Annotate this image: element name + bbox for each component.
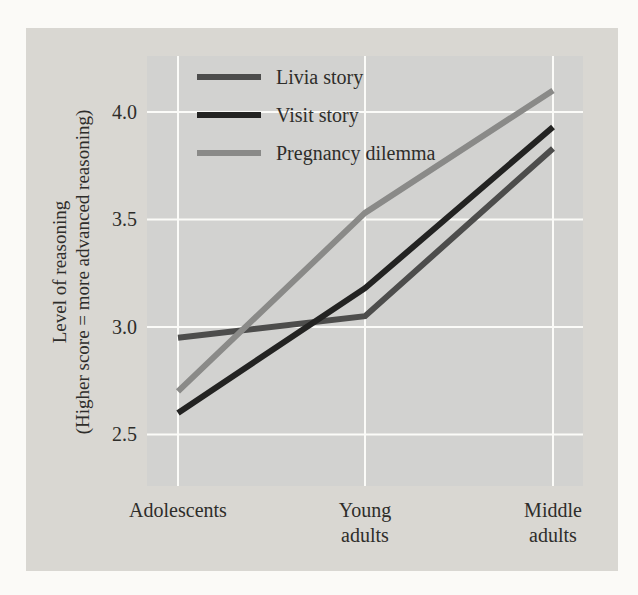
- plot-area: Livia story Visit story Pregnancy dilemm…: [147, 56, 583, 486]
- x-tick-line: Adolescents: [108, 498, 248, 523]
- x-tick-label: Adolescents: [108, 498, 248, 523]
- legend-label: Pregnancy dilemma: [276, 142, 435, 165]
- legend-label: Visit story: [276, 104, 359, 127]
- y-tick-label: 2.5: [67, 421, 137, 447]
- legend-item: Pregnancy dilemma: [197, 134, 435, 172]
- legend-item: Livia story: [197, 58, 435, 96]
- x-tick-line: Young: [295, 498, 435, 523]
- legend-item: Visit story: [197, 96, 435, 134]
- legend-swatch: [197, 74, 261, 80]
- legend: Livia story Visit story Pregnancy dilemm…: [197, 58, 435, 172]
- legend-swatch: [197, 150, 261, 156]
- y-tick-label: 3.5: [67, 206, 137, 232]
- y-tick-label: 4.0: [67, 99, 137, 125]
- scanned-figure-page: Level of reasoning (Higher score = more …: [0, 0, 638, 595]
- x-tick-line: Middle: [483, 498, 623, 523]
- figure-panel: Level of reasoning (Higher score = more …: [26, 28, 618, 571]
- x-tick-line: adults: [295, 523, 435, 548]
- x-tick-label: Young adults: [295, 498, 435, 548]
- legend-swatch: [197, 112, 261, 118]
- x-tick-label: Middle adults: [483, 498, 623, 548]
- legend-label: Livia story: [276, 66, 363, 89]
- x-tick-line: adults: [483, 523, 623, 548]
- y-tick-label: 3.0: [67, 314, 137, 340]
